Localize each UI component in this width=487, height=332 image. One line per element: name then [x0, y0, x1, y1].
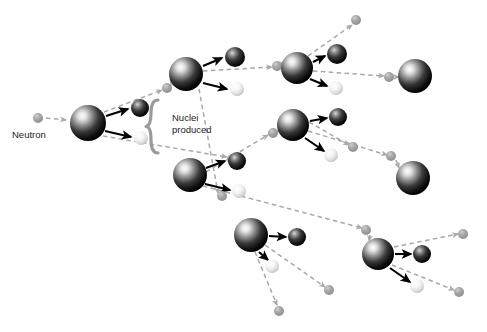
neutron-particle: [268, 128, 278, 138]
neutron-trajectory: [308, 131, 387, 155]
terminal-nucleus: [398, 59, 432, 93]
fission-product-arrow: [105, 131, 131, 137]
fission-fragment-light: [324, 148, 338, 162]
neutron-particle: [324, 285, 334, 295]
fission-fragment-heavy: [225, 47, 245, 67]
fission-fragment-light: [230, 82, 244, 96]
nuclei-produced-label-line2: produced: [172, 124, 212, 135]
fission-product-arrow: [205, 184, 230, 190]
neutron-trajectory: [309, 122, 349, 145]
fission-product-arrow: [106, 109, 128, 116]
neutron-trajectory: [203, 67, 272, 71]
neutron-trajectory: [313, 71, 384, 76]
neutron-particle: [386, 151, 396, 161]
fission-product-arrow: [313, 56, 325, 62]
fission-product-arrow: [259, 252, 268, 260]
fission-fragment-light: [232, 184, 246, 198]
fission-product-arrow: [203, 83, 227, 89]
neutron-trajectory: [394, 234, 458, 247]
neutron-trajectory: [369, 235, 370, 241]
neutron-particle: [348, 142, 358, 152]
fission-product-arrow: [310, 79, 327, 86]
fission-fragment-light: [265, 259, 279, 273]
fission-fragment-light: [410, 279, 424, 293]
nuclei-produced-label-line1: Nuclei: [172, 112, 198, 123]
fission-fragment-heavy: [228, 152, 246, 170]
fission-fragment-light: [329, 81, 343, 95]
fissioning-nucleus: [169, 57, 203, 91]
fission-fragment-light: [134, 131, 148, 145]
neutron-particle: [162, 83, 172, 93]
neutron-particle: [33, 113, 43, 123]
neutron-label: Neutron: [12, 129, 46, 140]
fission-product-arrow: [269, 236, 286, 237]
fissioning-nucleus: [70, 105, 106, 141]
fissioning-nucleus: [281, 52, 313, 84]
neutron-particle: [274, 306, 284, 316]
terminal-nucleus: [396, 161, 430, 195]
neutron-particle: [458, 229, 468, 239]
fission-fragment-heavy: [288, 228, 306, 246]
fission-diagram-canvas: Neutron Nuclei produced: [0, 0, 487, 332]
neutron-particle: [217, 191, 227, 201]
fissioning-nucleus: [362, 238, 394, 270]
nucleus-group: [70, 52, 432, 270]
neutron-particle: [272, 61, 282, 71]
neutron-trajectory: [46, 118, 66, 120]
neutron-trajectory: [203, 186, 362, 228]
fission-fragment-heavy: [131, 99, 149, 117]
neutron-particle: [361, 225, 371, 235]
neutron-path-group: [46, 25, 458, 305]
fission-diagram: Neutron Nuclei produced: [0, 0, 487, 332]
neutron-trajectory: [396, 160, 399, 168]
fission-fragment-heavy: [329, 108, 347, 126]
fissioning-nucleus: [234, 218, 268, 252]
fission-product-arrow: [390, 268, 410, 282]
fission-product-arrow: [310, 118, 327, 121]
fission-fragment-heavy: [327, 44, 347, 64]
neutron-particle: [351, 15, 361, 25]
neutron-particle: [454, 287, 464, 297]
fissioning-nucleus: [173, 158, 207, 192]
fission-fragment-heavy: [413, 245, 431, 263]
fission-product-arrow: [305, 138, 324, 151]
fissioning-nucleus: [277, 109, 309, 141]
fission-product-arrow: [203, 58, 222, 66]
neutron-particle: [384, 72, 394, 82]
